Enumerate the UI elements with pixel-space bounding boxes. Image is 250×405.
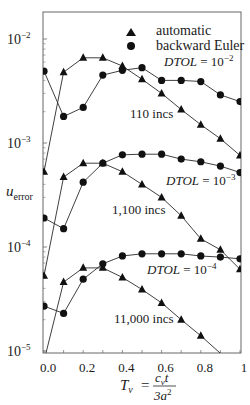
circle-marker-icon <box>217 91 224 98</box>
circle-marker-icon <box>197 252 204 259</box>
svg-text:=: = <box>141 377 149 393</box>
circle-marker-icon <box>138 64 145 71</box>
legend: automatic backward Euler <box>126 23 245 53</box>
incs-label-3: 11,000 incs <box>114 311 173 326</box>
circle-marker-icon <box>80 276 87 283</box>
triangle-marker-icon <box>79 263 87 271</box>
circle-marker-icon <box>236 98 243 105</box>
triangle-marker-icon <box>60 173 68 181</box>
circle-marker-icon <box>119 67 126 74</box>
triangle-marker-icon <box>138 75 146 83</box>
circle-marker-icon <box>119 151 126 158</box>
y-tick-label: 10−5 <box>7 342 31 359</box>
triangle-marker-icon <box>158 89 166 97</box>
circle-marker-icon <box>60 225 67 232</box>
x-tick-label: 1 <box>241 360 248 375</box>
dtol-label-2: DTOL = 10−3 <box>165 172 236 188</box>
circle-marker-icon <box>217 162 224 169</box>
circle-marker-icon <box>236 169 243 176</box>
triangle-marker-icon <box>60 278 68 286</box>
x-tick-label: 0.2 <box>79 360 95 375</box>
triangle-marker-icon <box>40 271 48 279</box>
circle-marker-icon <box>178 77 185 84</box>
circle-marker-icon <box>60 113 67 120</box>
triangle-marker-icon <box>216 245 224 253</box>
x-tick-label: 0.8 <box>197 360 213 375</box>
triangle-marker-icon <box>138 180 146 188</box>
triangle-marker-icon <box>158 298 166 306</box>
incs-label-1: 110 incs <box>130 106 173 121</box>
data-markers <box>40 53 244 339</box>
circle-marker-icon <box>197 158 204 165</box>
circle-marker-icon <box>40 68 47 75</box>
error-chart: 10−210−310−410−5 0.00.20.40.60.81 automa… <box>0 0 250 405</box>
circle-marker-icon <box>217 253 224 260</box>
circle-marker-icon <box>80 104 87 111</box>
circle-marker-icon <box>236 255 243 262</box>
triangle-marker-icon <box>118 273 126 281</box>
y-tick-label: 10−2 <box>7 30 31 47</box>
triangle-marker-icon <box>216 134 224 142</box>
triangle-marker-icon <box>197 331 205 339</box>
triangle-marker-icon <box>177 315 185 323</box>
triangle-marker-icon <box>99 53 107 61</box>
triangle-marker-icon <box>79 53 87 61</box>
triangle-marker-icon <box>79 159 87 167</box>
legend-triangle-icon <box>126 28 136 36</box>
circle-marker-icon <box>158 151 165 158</box>
triangle-marker-icon <box>40 167 48 175</box>
incs-label-2: 1,100 incs <box>112 202 165 217</box>
series-line <box>44 154 240 229</box>
circle-marker-icon <box>158 250 165 257</box>
circle-marker-icon <box>178 156 185 163</box>
circle-marker-icon <box>40 214 47 221</box>
circle-marker-icon <box>80 179 87 186</box>
y-axis-label: uerror <box>6 183 34 202</box>
circle-marker-icon <box>119 252 126 259</box>
circle-marker-icon <box>60 310 67 317</box>
x-tick-label: 0.4 <box>118 360 135 375</box>
circle-marker-icon <box>138 250 145 257</box>
svg-text:3a2: 3a2 <box>153 387 172 403</box>
triangle-marker-icon <box>236 151 244 159</box>
x-tick-label: 0.0 <box>40 360 56 375</box>
dtol-label-1: DTOL = 10−2 <box>163 53 233 69</box>
triangle-marker-icon <box>60 68 68 76</box>
y-tick-label: 10−3 <box>7 134 31 151</box>
circle-marker-icon <box>178 250 185 257</box>
triangle-marker-icon <box>177 105 185 113</box>
dtol-label-3: DTOL = 10−4 <box>146 261 217 277</box>
triangle-marker-icon <box>197 120 205 128</box>
circle-marker-icon <box>99 160 106 167</box>
svg-text:Tv: Tv <box>120 377 133 395</box>
triangle-marker-icon <box>138 285 146 293</box>
circle-marker-icon <box>99 71 106 78</box>
legend-automatic-label: automatic <box>156 23 211 38</box>
y-tick-label: 10−4 <box>7 238 31 255</box>
x-axis-ticks: 0.00.20.40.60.81 <box>40 350 247 375</box>
circle-marker-icon <box>197 78 204 85</box>
circle-marker-icon <box>99 260 106 267</box>
legend-circle-icon <box>127 42 135 50</box>
triangle-marker-icon <box>158 193 166 201</box>
circle-marker-icon <box>138 151 145 158</box>
legend-backward-euler-label: backward Euler <box>156 38 245 53</box>
triangle-marker-icon <box>177 211 185 219</box>
circle-marker-icon <box>158 77 165 84</box>
circle-marker-icon <box>40 303 47 310</box>
